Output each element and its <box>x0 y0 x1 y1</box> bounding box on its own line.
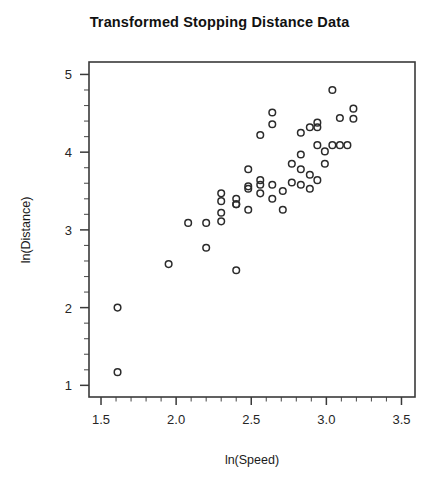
y-tick-label: 4 <box>65 145 72 160</box>
scatter-point <box>329 142 336 149</box>
chart-figure: Transformed Stopping Distance Data 1.52.… <box>0 0 439 503</box>
scatter-point-group <box>114 87 356 376</box>
x-axis-title: ln(Speed) <box>225 453 279 467</box>
y-tick-label: 3 <box>65 223 72 238</box>
scatter-point <box>289 161 296 168</box>
scatter-point <box>350 105 357 112</box>
scatter-point <box>322 161 329 168</box>
scatter-point <box>298 129 305 136</box>
scatter-point <box>218 218 225 225</box>
x-axis-ticks <box>101 397 401 405</box>
scatter-point <box>185 220 192 227</box>
plot-frame <box>89 62 415 397</box>
scatter-point <box>245 166 252 173</box>
scatter-point <box>307 185 314 192</box>
scatter-point <box>218 198 225 205</box>
x-tick-label: 2.5 <box>242 412 260 427</box>
scatter-point <box>329 87 336 94</box>
scatter-point <box>307 171 314 178</box>
scatter-point <box>298 182 305 189</box>
x-tick-label: 3.5 <box>392 412 410 427</box>
scatter-point <box>203 220 210 227</box>
scatter-point <box>279 206 286 213</box>
scatter-point <box>298 151 305 158</box>
scatter-point <box>269 182 276 189</box>
scatter-point <box>289 179 296 186</box>
scatter-point <box>218 190 225 197</box>
y-axis-title: ln(Distance) <box>19 197 33 264</box>
y-axis-tick-labels: 12345 <box>65 67 72 393</box>
scatter-point <box>344 142 351 149</box>
x-axis-tick-labels: 1.52.02.53.03.5 <box>92 412 411 427</box>
scatter-plot-canvas: 1.52.02.53.03.5 12345 ln(Speed) ln(Dista… <box>0 0 439 503</box>
scatter-point <box>337 115 344 122</box>
y-tick-label: 1 <box>65 378 72 393</box>
scatter-point <box>337 142 344 149</box>
scatter-point <box>257 190 264 197</box>
scatter-point <box>203 244 210 251</box>
scatter-point <box>233 267 240 274</box>
scatter-point <box>314 119 321 126</box>
scatter-point <box>245 206 252 213</box>
scatter-point <box>307 124 314 131</box>
scatter-point <box>314 142 321 149</box>
scatter-point <box>322 148 329 155</box>
scatter-point <box>314 177 321 184</box>
scatter-point <box>350 115 357 122</box>
y-tick-label: 2 <box>65 301 72 316</box>
scatter-point <box>114 304 121 311</box>
scatter-point <box>269 109 276 116</box>
scatter-point <box>257 177 264 184</box>
scatter-point <box>279 188 286 195</box>
scatter-point <box>269 195 276 202</box>
x-tick-label: 3.0 <box>317 412 335 427</box>
x-tick-label: 1.5 <box>92 412 110 427</box>
scatter-point <box>218 209 225 216</box>
scatter-point <box>257 132 264 139</box>
scatter-point <box>114 369 121 376</box>
y-tick-label: 5 <box>65 67 72 82</box>
scatter-point <box>298 166 305 173</box>
scatter-point <box>269 121 276 128</box>
y-axis-ticks <box>80 74 89 385</box>
scatter-point <box>165 261 172 268</box>
x-tick-label: 2.0 <box>167 412 185 427</box>
